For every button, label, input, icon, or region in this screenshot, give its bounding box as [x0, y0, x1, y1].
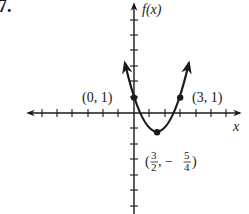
point-0-1 — [131, 94, 137, 100]
problem-number: 7. — [0, 0, 12, 16]
vertex-label: ( 3 2 , − 5 4 ) — [145, 149, 197, 173]
svg-text:2: 2 — [151, 161, 157, 173]
x-axis-label: x — [232, 119, 240, 134]
vertex-point — [154, 129, 160, 135]
svg-text:5: 5 — [184, 149, 190, 161]
svg-text:3: 3 — [151, 149, 157, 161]
point-3-1 — [177, 94, 183, 100]
point-label-left: (0, 1) — [82, 90, 113, 106]
svg-text:(: ( — [145, 154, 150, 170]
svg-text:, −: , − — [158, 154, 173, 169]
svg-text:): ) — [192, 154, 197, 170]
y-axis-label: f(x) — [142, 2, 162, 18]
point-label-right: (3, 1) — [192, 90, 223, 106]
svg-text:4: 4 — [184, 161, 190, 173]
function-graph: 7. f(x) x (0, — [0, 0, 249, 214]
